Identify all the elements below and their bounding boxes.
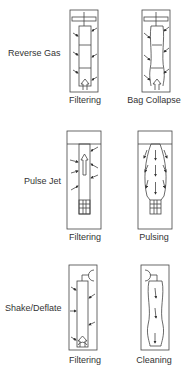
pulse-jet-pulsing-panel	[138, 131, 172, 229]
reverse-gas-filtering-panel	[70, 10, 98, 92]
baghouse-diagram	[0, 0, 184, 370]
pulse-jet-filtering-panel	[67, 131, 101, 229]
shake-filtering-panel	[69, 265, 97, 350]
shake-cleaning-panel	[141, 265, 169, 350]
reverse-gas-collapse-panel	[142, 10, 170, 92]
